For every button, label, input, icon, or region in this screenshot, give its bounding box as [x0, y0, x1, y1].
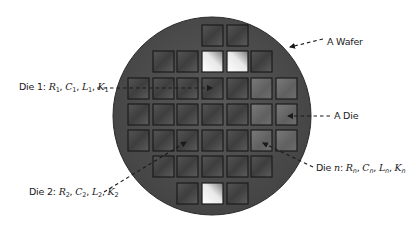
label-a-die: A Die — [334, 110, 358, 121]
label-a-wafer: A Wafer — [327, 36, 363, 47]
die — [227, 130, 248, 151]
die — [227, 51, 248, 72]
die — [202, 130, 223, 151]
die — [251, 104, 272, 125]
die — [153, 51, 174, 72]
var-r: R — [346, 162, 353, 173]
die — [227, 156, 248, 177]
die — [202, 104, 223, 125]
label-die-n: Die n: Rn, Cn, Ln, Kn — [316, 162, 405, 175]
die — [276, 78, 297, 99]
die — [128, 104, 149, 125]
die — [276, 130, 297, 151]
label-die-2: Die 2: R2, C2, L2, K2 — [29, 186, 118, 199]
sub: 1 — [104, 86, 108, 94]
die — [177, 104, 198, 125]
die — [251, 78, 272, 99]
die — [202, 51, 223, 72]
die — [153, 130, 174, 151]
die — [251, 156, 272, 177]
die — [153, 156, 174, 177]
die — [128, 130, 149, 151]
die — [177, 183, 198, 204]
die — [202, 78, 223, 99]
var-k: K — [395, 162, 402, 173]
arrow-wafer — [290, 39, 323, 47]
die — [227, 104, 248, 125]
label-prefix: Die — [316, 162, 334, 173]
die — [202, 25, 223, 46]
die — [251, 130, 272, 151]
die — [227, 25, 248, 46]
die — [227, 183, 248, 204]
label-prefix: Die 1: — [19, 81, 49, 92]
sub: n — [402, 167, 406, 175]
die — [276, 104, 297, 125]
label-die-1: Die 1: R1, C1, L1, K1 — [19, 81, 108, 94]
label-text: A Wafer — [327, 36, 363, 47]
var-r: R — [49, 81, 56, 92]
die — [177, 156, 198, 177]
die — [202, 183, 223, 204]
die — [202, 156, 223, 177]
sub: 2 — [114, 191, 118, 199]
die — [177, 130, 198, 151]
var-r: R — [59, 186, 66, 197]
die-grid — [128, 25, 297, 204]
die — [153, 104, 174, 125]
label-text: A Die — [334, 110, 358, 121]
die — [251, 51, 272, 72]
die — [177, 51, 198, 72]
die — [227, 78, 248, 99]
label-prefix: Die 2: — [29, 186, 59, 197]
